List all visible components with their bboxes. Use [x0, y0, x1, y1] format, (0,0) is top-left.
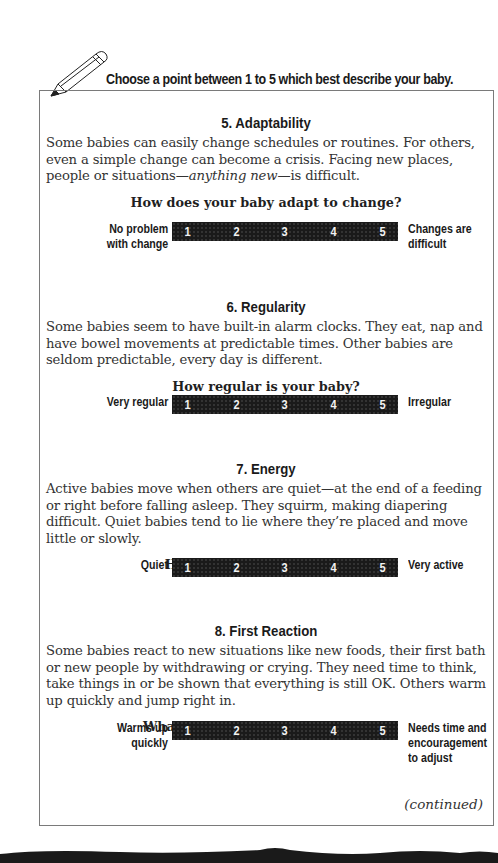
section-first-reaction: 8. First Reaction Some babies react to n…: [46, 622, 486, 734]
rating-option-3[interactable]: 3: [282, 560, 288, 575]
rating-bar: 1 2 3 4 5: [172, 558, 398, 577]
rating-option-4[interactable]: 4: [331, 397, 337, 412]
rating-option-5[interactable]: 5: [379, 397, 385, 412]
rating-option-4[interactable]: 4: [331, 723, 337, 738]
rating-option-3[interactable]: 3: [282, 723, 288, 738]
scale-left-label: Warms up quickly: [117, 721, 168, 751]
section-energy: 7. Energy Active babies move when others…: [46, 460, 486, 572]
rating-bar: 1 2 3 4 5: [172, 395, 398, 414]
section-description: Some babies react to new situations like…: [46, 643, 486, 709]
section-title: 6. Regularity: [72, 298, 459, 315]
section-question: How does your baby adapt to change?: [46, 195, 486, 210]
section-title: 7. Energy: [72, 460, 459, 477]
rating-bar: 1 2 3 4 5: [172, 222, 398, 241]
rating-option-5[interactable]: 5: [379, 560, 385, 575]
rating-option-4[interactable]: 4: [331, 224, 337, 239]
rating-option-2[interactable]: 2: [233, 723, 239, 738]
rating-option-1[interactable]: 1: [185, 224, 191, 239]
rating-bar: 1 2 3 4 5: [172, 721, 398, 740]
instruction-text: Choose a point between 1 to 5 which best…: [106, 71, 453, 87]
rating-option-5[interactable]: 5: [379, 723, 385, 738]
section-description: Active babies move when others are quiet…: [46, 481, 486, 547]
rating-option-5[interactable]: 5: [379, 224, 385, 239]
rating-option-2[interactable]: 2: [233, 224, 239, 239]
section-regularity: 6. Regularity Some babies seem to have b…: [46, 298, 486, 394]
scale-right-label: Needs time and encouragement to adjust: [408, 721, 487, 766]
continued-note: (continued): [404, 796, 483, 812]
scale-right-label: Very active: [408, 558, 464, 573]
section-title: 5. Adaptability: [72, 114, 459, 131]
rating-option-3[interactable]: 3: [282, 397, 288, 412]
rating-option-1[interactable]: 1: [185, 723, 191, 738]
scale-left-label: Very regular: [107, 395, 168, 410]
section-title: 8. First Reaction: [72, 622, 459, 639]
rating-option-4[interactable]: 4: [331, 560, 337, 575]
scale-right-label: Irregular: [408, 395, 451, 410]
section-question: How regular is your baby?: [46, 379, 486, 394]
section-description: Some babies seem to have built-in alarm …: [46, 319, 486, 369]
rating-option-1[interactable]: 1: [185, 560, 191, 575]
rating-option-3[interactable]: 3: [282, 224, 288, 239]
scale-left-label: No problem with change: [107, 222, 168, 252]
scale-left-label: Quiet: [141, 558, 168, 573]
scale-right-label: Changes are difficult: [408, 222, 472, 252]
rating-option-1[interactable]: 1: [185, 397, 191, 412]
rating-option-2[interactable]: 2: [233, 397, 239, 412]
section-adaptability: 5. Adaptability Some babies can easily c…: [46, 114, 486, 210]
section-description: Some babies can easily change schedules …: [46, 135, 486, 185]
brush-stroke-divider: [0, 845, 498, 863]
rating-option-2[interactable]: 2: [233, 560, 239, 575]
